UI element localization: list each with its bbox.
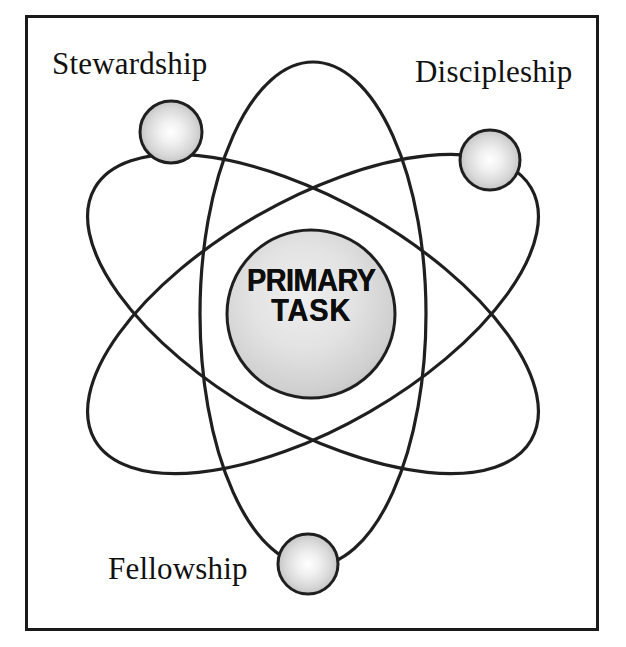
diagram-page: Stewardship Discipleship Fellowship PRIM… <box>0 0 626 647</box>
stewardship-sphere-circle <box>140 101 202 163</box>
discipleship-sphere-circle <box>460 130 520 190</box>
node-sphere-stewardship <box>140 101 202 163</box>
fellowship-sphere-circle <box>278 534 338 594</box>
label-discipleship: Discipleship <box>415 54 572 90</box>
label-stewardship: Stewardship <box>52 46 207 82</box>
core-label: PRIMARY TASK <box>237 266 386 326</box>
core-label-line-2: TASK <box>237 296 386 326</box>
label-fellowship: Fellowship <box>108 551 248 587</box>
node-sphere-fellowship <box>278 534 338 594</box>
node-sphere-discipleship <box>460 130 520 190</box>
